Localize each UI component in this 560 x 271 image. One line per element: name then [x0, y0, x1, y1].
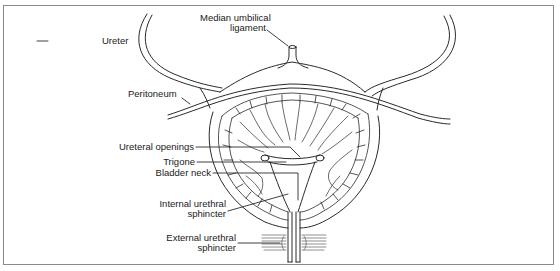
- label-external-urethral-sphincter: External urethral sphincter: [150, 233, 236, 253]
- label-line-2: sphincter: [140, 209, 226, 219]
- median-umbilical-ligament: [278, 46, 308, 69]
- bladder-dome: [220, 62, 365, 92]
- label-internal-urethral-sphincter: Internal urethral sphincter: [140, 199, 226, 219]
- right-ureter: [365, 15, 456, 96]
- external-sphincter-muscle: [262, 235, 326, 250]
- trigone: [261, 155, 324, 212]
- label-peritoneum: Peritoneum: [128, 89, 177, 99]
- label-ureter: Ureter: [102, 36, 128, 46]
- urethra: [288, 212, 300, 262]
- label-trigone: Trigone: [140, 157, 195, 167]
- label-ureteral-openings: Ureteral openings: [100, 142, 194, 152]
- label-line-2: ligament: [200, 23, 266, 33]
- mucosal-folds: [238, 102, 352, 196]
- detrusor-muscle-layer: [218, 93, 369, 220]
- label-bladder-neck: Bladder neck: [140, 168, 211, 178]
- label-median-umbilical-ligament: Median umbilical ligament: [200, 13, 266, 33]
- label-line-2: sphincter: [150, 243, 236, 253]
- bladder-diagram: [0, 0, 560, 271]
- bladder-outer-wall: [209, 112, 380, 228]
